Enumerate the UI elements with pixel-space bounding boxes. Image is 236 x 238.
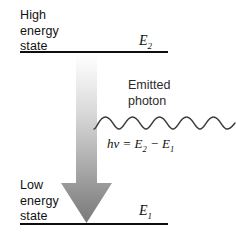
downward-transition-arrow [58,55,114,225]
minus-sign: − [147,136,162,151]
equation-lower-energy-subscript: 1 [170,144,174,154]
upper-energy-symbol-subscript: 2 [148,41,153,51]
equation-upper-energy-letter: E [135,136,143,151]
photon-energy-equation: hν = E2 − E1 [107,136,174,154]
low-energy-state-label: Low energy state [20,178,59,225]
upper-energy-symbol-letter: E [139,33,148,48]
lower-energy-level-line [20,223,168,225]
equation-lower-energy-letter: E [162,136,170,151]
energy-level-diagram: High energy state E2 Emitted photon hν =… [0,0,236,238]
photon-wave-path [94,117,235,129]
upper-energy-level-line [20,51,168,53]
emitted-photon-label: Emitted photon [128,78,170,109]
equals-sign: = [119,136,134,151]
high-energy-state-label: High energy state [20,8,59,55]
upper-energy-symbol: E2 [139,33,152,51]
lower-energy-symbol-subscript: 1 [148,211,153,221]
lower-energy-symbol-letter: E [139,203,148,218]
lower-energy-symbol: E1 [139,203,152,221]
